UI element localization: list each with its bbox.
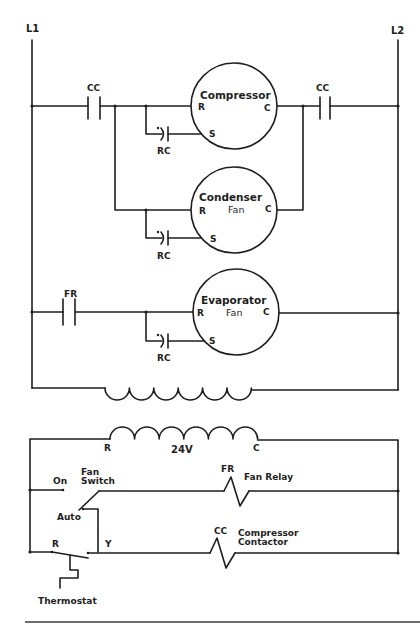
thermostat-bimetal	[60, 555, 78, 588]
compressor-s-terminal: S	[209, 130, 215, 139]
contactor-rung	[28, 538, 399, 588]
fan-switch-label-line2: Switch	[81, 477, 115, 486]
compressor-contactor-abbr: CC	[214, 527, 227, 536]
evaporator-r-terminal: R	[197, 309, 204, 318]
compressor-c-terminal: C	[264, 104, 271, 113]
fan-switch-blade	[79, 491, 99, 510]
secondary-r-terminal: R	[104, 444, 111, 453]
evaporator-s-terminal: S	[209, 337, 215, 346]
fan-relay-abbr: FR	[221, 465, 234, 474]
condenser-s-terminal: S	[210, 235, 216, 244]
condenser-name: Condenser	[199, 192, 262, 203]
compressor-rc-label: RC	[157, 147, 171, 156]
secondary-c-terminal: C	[253, 444, 260, 453]
condenser-r-terminal: R	[199, 207, 206, 216]
cc-right-label: CC	[316, 84, 329, 93]
l2-label: L2	[391, 26, 404, 36]
thermostat-label: Thermostat	[38, 597, 97, 606]
compressor-contactor-coil	[210, 538, 235, 568]
thermostat-r-terminal: R	[52, 540, 59, 549]
compressor-contactor-label-line2: Contactor	[238, 538, 299, 547]
compressor-contactor-label: Compressor Contactor	[238, 529, 299, 546]
fan-relay-rung	[28, 477, 399, 552]
l1-label: L1	[26, 24, 39, 34]
fan-switch-label: Fan Switch	[81, 468, 115, 485]
evaporator-rc-label: RC	[157, 354, 171, 363]
condenser-sub: Fan	[228, 205, 244, 215]
evaporator-c-terminal: C	[263, 308, 270, 317]
evaporator-name: Evaporator	[201, 295, 267, 306]
compressor-r-terminal: R	[198, 103, 205, 112]
cc-left-label: CC	[87, 84, 100, 93]
compressor-name: Compressor	[200, 90, 271, 101]
thermostat-y-terminal: Y	[105, 540, 112, 549]
condenser-rc-label: RC	[157, 252, 171, 261]
evaporator-sub: Fan	[226, 308, 242, 318]
transformer-primary	[32, 388, 398, 400]
fan-relay-label: Fan Relay	[244, 473, 293, 482]
bottom-divider	[25, 621, 420, 623]
fr-contact-label: FR	[64, 290, 77, 299]
fan-switch-on-label: On	[53, 477, 67, 486]
condenser-c-terminal: C	[265, 205, 272, 214]
fan-switch-auto-label: Auto	[57, 513, 81, 522]
secondary-voltage-label: 24V	[171, 445, 193, 455]
